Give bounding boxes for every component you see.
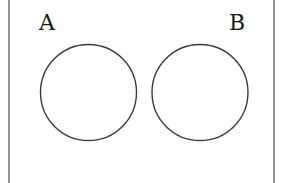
venn-diagram: A B: [0, 0, 287, 183]
set-b-circle: [152, 45, 248, 141]
set-a-label: A: [38, 10, 56, 35]
set-a-circle: [41, 45, 137, 141]
set-b-label: B: [229, 10, 245, 35]
